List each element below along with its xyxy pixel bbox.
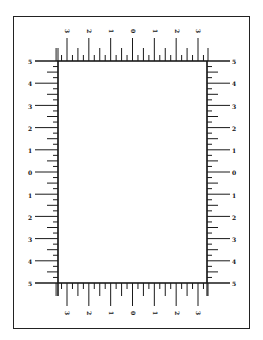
scale-label: 5 [232,58,236,65]
left-scale: 54321012345 [28,58,58,297]
scale-label: 5 [28,58,32,65]
ruler-diagram: 3210123 3210123 54321012345 54321012345 [0,0,263,340]
scale-label: 3 [28,236,32,243]
scale-label: 4 [28,80,32,87]
scale-label: 4 [232,80,236,87]
scale-label: 3 [195,311,202,315]
scale-label: 2 [86,29,93,33]
scale-label: 1 [232,192,236,199]
scale-label: 0 [232,169,236,176]
rectangle-outline [58,61,207,283]
scale-label: 0 [130,29,137,33]
scale-label: 3 [28,103,32,110]
scale-label: 2 [174,311,181,315]
scale-label: 2 [174,29,181,33]
scale-label: 2 [28,214,32,221]
scale-label: 2 [232,214,236,221]
scale-label: 2 [86,311,93,315]
scale-label: 1 [28,192,32,199]
scale-label: 1 [108,311,115,315]
scale-label: 3 [195,29,202,33]
scale-label: 1 [28,147,32,154]
scale-label: 1 [152,29,159,33]
top-scale: 3210123 [35,29,230,61]
scale-label: 0 [28,169,32,176]
scale-label: 3 [64,29,71,33]
scale-label: 5 [28,280,32,287]
scale-label: 4 [232,258,236,265]
bottom-scale: 3210123 [35,283,230,315]
scale-label: 1 [108,29,115,33]
scale-label: 3 [232,103,236,110]
central-rectangle [58,61,207,283]
scale-label: 0 [130,311,137,315]
scale-label: 3 [64,311,71,315]
scale-label: 1 [152,311,159,315]
scale-label: 4 [28,258,32,265]
scale-label: 3 [232,236,236,243]
scale-label: 2 [28,125,32,132]
scale-label: 1 [232,147,236,154]
scale-label: 2 [232,125,236,132]
right-scale: 54321012345 [207,58,236,297]
scale-label: 5 [232,280,236,287]
